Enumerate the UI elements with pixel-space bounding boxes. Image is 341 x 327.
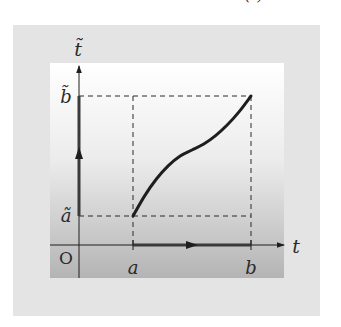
a-tilde-label: ã <box>61 205 72 226</box>
curve-equation-label: t̃=σ (t) <box>209 0 264 4</box>
horizontal-axis-label: t <box>292 235 300 257</box>
b-label: b <box>245 257 257 278</box>
parametrization-diagram: t̃ t b̃ ã O a b t̃=σ (t) <box>0 0 341 327</box>
b-tilde-label: b̃ <box>60 85 72 107</box>
origin-label: O <box>59 248 73 268</box>
a-label: a <box>128 257 139 278</box>
